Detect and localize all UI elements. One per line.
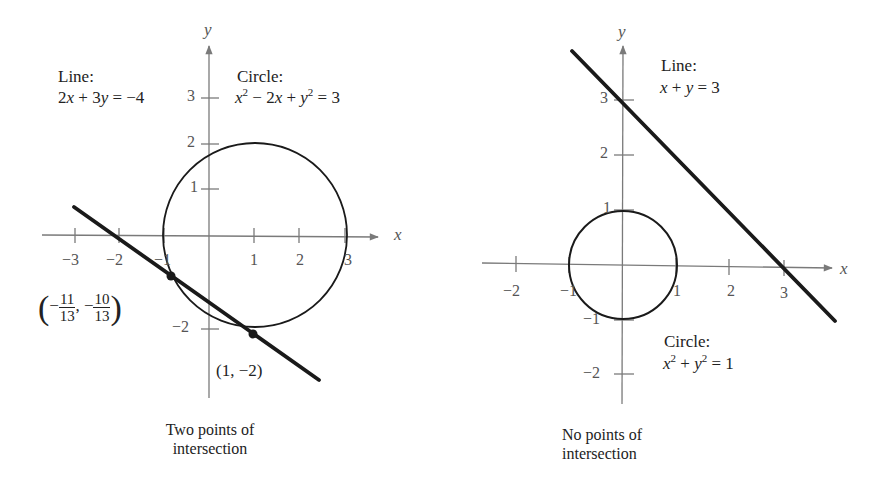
left-x-tick-3: 3: [344, 251, 352, 269]
left-y-tick-2: 2: [187, 133, 195, 151]
right-line-title: Line:: [661, 56, 697, 76]
left-circle: [163, 143, 347, 327]
intersection-point-b: [249, 330, 258, 339]
right-y-tick-2: 2: [600, 144, 608, 162]
right-caption-line1: No points of: [562, 425, 682, 444]
right-y-ticks: [614, 100, 634, 374]
left-y-ticks: [201, 98, 219, 329]
right-y-tick-1: 1: [603, 199, 611, 217]
left-line-title: Line:: [58, 67, 94, 87]
left-y-tick-3: 3: [187, 87, 195, 105]
intersection-point-a: [167, 272, 176, 281]
diagram-canvas: [0, 0, 875, 480]
right-x-tick-3: 3: [780, 284, 788, 302]
left-line-equation-text: 2x + 3y = −4: [58, 88, 144, 107]
left-x-tick-neg1: −1: [154, 251, 171, 269]
right-circle-title: Circle:: [664, 332, 710, 352]
right-circle-equation: x2 + y2 = 1: [663, 354, 734, 374]
left-x-axis-label: x: [394, 225, 402, 245]
right-line-equation: x + y = 3: [660, 78, 720, 98]
right-y-tick-3: 3: [600, 89, 608, 107]
point-a-label: (−1113, −1013): [38, 291, 122, 324]
left-caption-line1: Two points of: [140, 420, 280, 439]
left-line-equation: 2x + 3y = −4: [58, 88, 144, 108]
left-y-tick-neg2: −2: [172, 318, 189, 336]
right-y-axis-label: y: [618, 22, 626, 42]
point-a-x-denominator: 13: [59, 308, 75, 324]
right-graph: [482, 46, 835, 404]
left-x-tick-1: 1: [250, 251, 258, 269]
right-x-axis-label: x: [840, 259, 848, 279]
right-caption-line2: intersection: [562, 444, 682, 463]
right-y-tick-neg2: −2: [583, 364, 600, 382]
point-a-y-numerator: 10: [93, 291, 110, 308]
right-x-tick-2: 2: [727, 282, 735, 300]
left-x-tick-neg2: −2: [106, 251, 123, 269]
point-b-label: (1, −2): [216, 361, 262, 381]
left-circle-title: Circle:: [237, 67, 283, 87]
right-x-tick-neg2: −2: [503, 282, 520, 300]
left-x-axis: [42, 235, 378, 237]
point-a-y-denominator: 13: [93, 308, 110, 324]
right-y-tick-neg1: −1: [583, 310, 600, 328]
left-caption-line2: intersection: [140, 439, 280, 458]
point-a-x-numerator: 11: [59, 291, 75, 308]
left-circle-equation: x2 − 2x + y2 = 3: [235, 88, 340, 108]
left-x-tick-2: 2: [296, 251, 304, 269]
left-y-axis-label: y: [204, 20, 212, 40]
left-y-tick-1: 1: [190, 178, 198, 196]
right-x-tick-neg1: −1: [560, 282, 577, 300]
left-x-tick-neg3: −3: [62, 251, 79, 269]
right-caption: No points of intersection: [562, 425, 682, 463]
left-caption: Two points of intersection: [140, 420, 280, 458]
right-x-tick-1: 1: [673, 282, 681, 300]
